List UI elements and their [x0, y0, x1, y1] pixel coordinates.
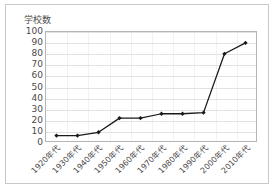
y-axis-tick-label: 100 [9, 27, 43, 36]
y-axis: 0102030405060708090100 [6, 31, 43, 142]
series-line [57, 43, 246, 136]
y-axis-tick-label: 60 [9, 71, 43, 80]
y-axis-tick-label: 70 [9, 60, 43, 69]
data-point-marker [159, 112, 163, 116]
y-axis-tick-label: 20 [9, 115, 43, 124]
plot-area [45, 31, 257, 142]
chart-title: 学校数 [24, 13, 51, 26]
chart-container: 学校数 0102030405060708090100 1920年代1930年代1… [5, 4, 269, 184]
y-axis-tick-label: 90 [9, 38, 43, 47]
line-series [46, 32, 256, 141]
y-axis-tick-label: 30 [9, 104, 43, 113]
y-axis-tick-label: 10 [9, 126, 43, 135]
y-axis-tick-label: 50 [9, 82, 43, 91]
data-point-marker [201, 110, 205, 114]
y-axis-tick-label: 0 [9, 138, 43, 147]
x-axis: 1920年代1930年代1940年代1950年代1960年代1970年代1980… [45, 142, 257, 190]
data-point-marker [180, 112, 184, 116]
y-axis-tick-label: 40 [9, 93, 43, 102]
data-point-marker [54, 133, 58, 137]
data-point-marker [138, 116, 142, 120]
y-axis-tick-label: 80 [9, 49, 43, 58]
data-point-marker [75, 133, 79, 137]
